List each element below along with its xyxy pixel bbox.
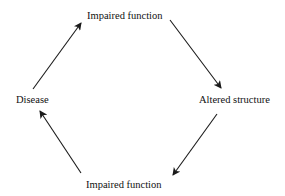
node-altered-structure: Altered structure (199, 94, 270, 105)
cycle-diagram: Impaired function Altered structure Impa… (0, 0, 285, 196)
node-impaired-function-bottom: Impaired function (86, 179, 162, 190)
node-disease: Disease (16, 94, 49, 105)
node-impaired-function-top: Impaired function (87, 10, 163, 21)
arrow-impaired-function-to-altered-structure (170, 20, 221, 88)
arrow-altered-structure-to-impaired-function-bottom (173, 114, 217, 175)
arrow-impaired-function-to-disease (40, 111, 81, 173)
diagram-svg: Impaired function Altered structure Impa… (0, 0, 285, 196)
arrow-disease-to-impaired-function-top (33, 23, 81, 89)
